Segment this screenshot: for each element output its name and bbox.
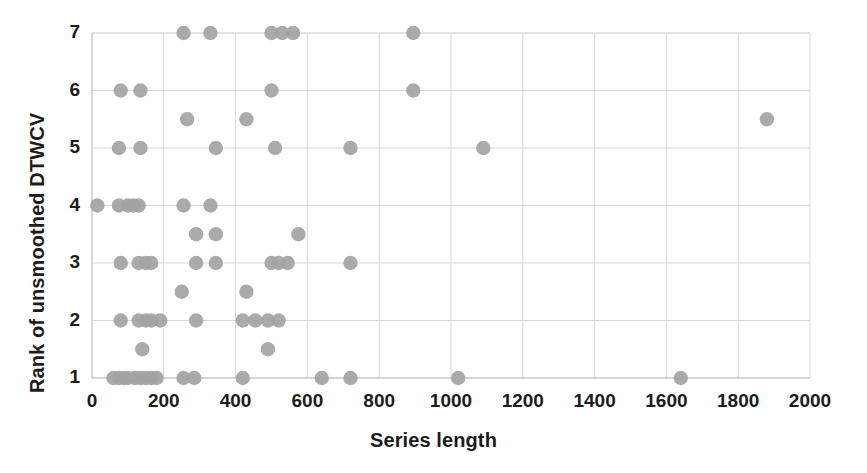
data-point	[176, 26, 190, 40]
data-point	[153, 313, 167, 327]
data-point	[268, 141, 282, 155]
data-point	[180, 112, 194, 126]
data-point	[406, 26, 420, 40]
data-point	[209, 256, 223, 270]
data-point	[203, 26, 217, 40]
data-point	[236, 371, 250, 385]
data-point	[209, 227, 223, 241]
data-point	[189, 313, 203, 327]
data-point	[189, 227, 203, 241]
data-point	[236, 313, 250, 327]
data-point	[135, 342, 149, 356]
data-point	[149, 371, 163, 385]
data-point	[264, 83, 278, 97]
data-point	[760, 112, 774, 126]
data-point	[239, 112, 253, 126]
data-point	[175, 285, 189, 299]
data-point	[176, 198, 190, 212]
data-point	[248, 313, 262, 327]
data-point	[315, 371, 329, 385]
data-point	[133, 83, 147, 97]
data-point	[189, 256, 203, 270]
data-point	[114, 313, 128, 327]
data-point	[187, 371, 201, 385]
data-point	[239, 285, 253, 299]
data-point	[114, 256, 128, 270]
data-point	[90, 198, 104, 212]
data-point	[261, 342, 275, 356]
scatter-chart: Rank of unsmoothed DTWCV Series length 1…	[0, 0, 867, 473]
data-point	[343, 256, 357, 270]
data-point	[286, 26, 300, 40]
data-point	[131, 198, 145, 212]
data-point	[406, 83, 420, 97]
plot-area	[0, 0, 867, 473]
data-point	[476, 141, 490, 155]
data-point	[133, 141, 147, 155]
data-point	[144, 256, 158, 270]
data-point	[343, 371, 357, 385]
data-point	[291, 227, 305, 241]
data-point	[114, 83, 128, 97]
data-point	[209, 141, 223, 155]
data-point	[280, 256, 294, 270]
data-point	[674, 371, 688, 385]
data-point	[203, 198, 217, 212]
data-point	[451, 371, 465, 385]
data-point	[343, 141, 357, 155]
data-point	[271, 313, 285, 327]
data-point	[112, 141, 126, 155]
